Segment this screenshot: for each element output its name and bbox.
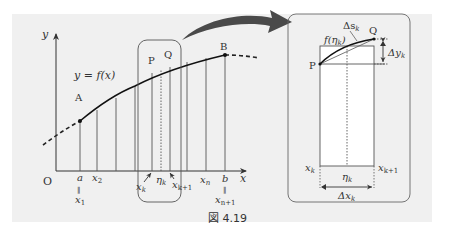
equals-a-x1: ‖: [77, 186, 81, 194]
point-a-label: A: [74, 92, 83, 103]
tick-label-b: b: [222, 173, 228, 184]
point-p-label: P: [148, 55, 155, 66]
x-axis-label: x: [240, 172, 247, 185]
inset-point-p: [318, 62, 321, 65]
equals-b-xn1: ‖: [223, 186, 227, 194]
y-axis-label: y: [41, 28, 49, 41]
inset-point-q-label: Q: [369, 25, 377, 36]
inset-point-p-label: P: [309, 60, 316, 71]
point-b: [223, 53, 227, 57]
figure-caption: 図 4.19: [208, 212, 247, 225]
figure-4-19: y x O y = f(x) A B P Q a ‖ x1 x2 xk ηk x…: [0, 0, 454, 243]
inset-point-q: [372, 37, 375, 40]
curve-label: y = f(x): [73, 69, 115, 82]
point-b-label: B: [220, 41, 227, 52]
point-q-label: Q: [164, 49, 172, 60]
point-a: [78, 119, 82, 123]
origin-label: O: [43, 175, 52, 188]
tick-label-a: a: [77, 172, 83, 183]
